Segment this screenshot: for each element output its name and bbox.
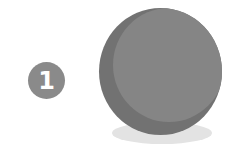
sphere-icon bbox=[99, 8, 222, 135]
step-number: 1 bbox=[38, 69, 55, 93]
step-number-badge: 1 bbox=[28, 62, 65, 99]
sphere-highlight-face bbox=[113, 8, 222, 122]
